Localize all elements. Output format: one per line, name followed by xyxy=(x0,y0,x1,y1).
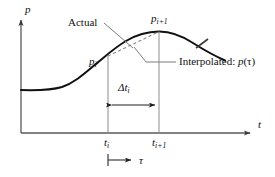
p-i-plus-1-label: pi+1 xyxy=(151,13,168,24)
p-i-plus-1-subscript: i+1 xyxy=(157,17,168,26)
delta-t-base: Δt xyxy=(118,81,128,93)
p-i-plus-1-base: p xyxy=(151,12,157,24)
p-i-label: pi xyxy=(89,56,97,67)
xtick-label-ti1: ti+1 xyxy=(152,137,166,148)
actual-label: Actual xyxy=(68,17,97,28)
figure-canvas: p t Actual pi pi+1 Interpolated: p(τ) Δt… xyxy=(0,0,275,177)
y-axis-label: p xyxy=(25,4,31,15)
interpolated-chord xyxy=(108,32,159,56)
p-i-base: p xyxy=(89,55,95,67)
p-i-subscript: i xyxy=(95,60,97,69)
delta-t-label: Δti xyxy=(118,82,130,93)
interpolated-label: Interpolated: p(τ) xyxy=(179,56,255,67)
xtick-label-ti: ti xyxy=(104,137,109,148)
xtick-ti-subscript: i xyxy=(107,141,109,150)
tau-label: τ xyxy=(139,155,143,166)
figure-graphics xyxy=(0,0,275,177)
x-axis-label: t xyxy=(258,119,261,130)
interpolated-argument: (τ) xyxy=(243,55,255,67)
interpolated-prefix: Interpolated: xyxy=(179,55,238,67)
delta-t-subscript: i xyxy=(128,86,130,95)
tau-origin-indicator xyxy=(108,154,131,166)
actual-leader-line xyxy=(104,23,133,48)
xtick-ti1-subscript: i+1 xyxy=(155,141,166,150)
